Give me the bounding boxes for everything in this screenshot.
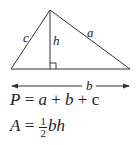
fraction-denominator: 2 xyxy=(39,128,47,139)
plus-sign: + xyxy=(74,90,92,109)
right-angle-marker xyxy=(50,63,56,69)
triangle-diagram: c h a b xyxy=(0,0,140,92)
var-b: b xyxy=(65,90,74,109)
area-symbol: A xyxy=(10,116,20,135)
one-half-fraction: 12 xyxy=(39,116,47,139)
triangle xyxy=(11,10,130,69)
var-a: a xyxy=(38,90,47,109)
side-label-c: c xyxy=(23,30,29,45)
perimeter-symbol: P xyxy=(10,90,20,109)
arrowhead-left-icon xyxy=(11,84,18,89)
area-formula: A = 12bh xyxy=(10,116,65,139)
var-bh: bh xyxy=(48,116,65,135)
perimeter-formula: P = a + b + c xyxy=(10,91,99,108)
plus-sign: + xyxy=(47,90,65,109)
side-label-a: a xyxy=(87,25,94,40)
equals-sign: = xyxy=(20,90,38,109)
equals-sign: = xyxy=(20,116,38,135)
altitude-label-h: h xyxy=(53,33,60,48)
arrowhead-right-icon xyxy=(123,84,130,89)
var-c: c xyxy=(92,90,100,109)
